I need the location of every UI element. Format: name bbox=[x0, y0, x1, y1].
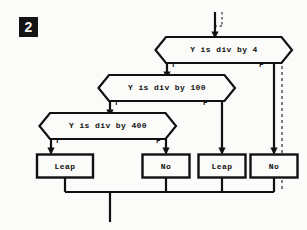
decision-label-div-by-400: Y is div by 400 bbox=[69, 121, 147, 130]
decision-label-div-by-100: Y is div by 100 bbox=[128, 83, 206, 92]
terminal-label-no-2: No bbox=[269, 162, 279, 171]
branch-label-4-false: F bbox=[259, 62, 264, 70]
terminal-label-leap-1: Leap bbox=[55, 162, 76, 171]
flowchart-diagram bbox=[0, 0, 307, 230]
decision-label-div-by-4: Y is div by 4 bbox=[190, 45, 258, 54]
figure-index-badge: 2 bbox=[19, 17, 38, 37]
branch-label-400-false: F bbox=[156, 138, 161, 146]
flowchart-figure: 2 Y is div by 4 Y is div by 100 Y is div… bbox=[0, 0, 307, 230]
branch-label-100-true: T bbox=[114, 100, 119, 108]
branch-label-100-false: F bbox=[203, 100, 208, 108]
branch-label-4-true: T bbox=[171, 62, 176, 70]
branch-label-400-true: T bbox=[55, 138, 60, 146]
terminal-label-no-1: No bbox=[161, 162, 171, 171]
terminal-label-leap-2: Leap bbox=[212, 162, 233, 171]
